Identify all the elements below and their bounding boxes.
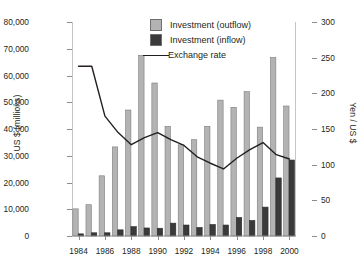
legend-item[interactable]: Investment (inflow) xyxy=(150,33,320,47)
x-axis-tick-label: 1986 xyxy=(96,246,114,256)
bar-inflow xyxy=(144,228,149,236)
y-axis-right-tick-label: 100 xyxy=(321,160,335,170)
y-axis-right-tick-label: 200 xyxy=(321,88,335,98)
bar-inflow xyxy=(184,225,189,236)
bar-outflow xyxy=(165,126,170,236)
x-axis-tick-label: 1996 xyxy=(227,246,245,256)
bar-inflow xyxy=(236,218,241,236)
legend-line-stroke xyxy=(143,55,169,56)
x-axis-tick xyxy=(105,236,106,240)
x-axis-tick-label: 1992 xyxy=(175,246,193,256)
x-axis-tick-label: 1984 xyxy=(69,246,87,256)
x-axis-tick xyxy=(263,236,264,240)
bar-inflow xyxy=(276,178,281,236)
y-axis-right-tick xyxy=(312,200,317,201)
bar-outflow xyxy=(231,107,236,236)
x-axis-tick-labels: 198419861988199019921994199619982000 xyxy=(72,240,296,262)
y-axis-left-tick-label: 70,000 xyxy=(4,44,29,54)
legend-line-icon xyxy=(150,50,160,60)
chart-legend: Investment (outflow)Investment (inflow)E… xyxy=(150,18,320,63)
bar-inflow xyxy=(210,225,215,237)
legend-item[interactable]: Exchange rate xyxy=(150,48,320,62)
x-axis-tick-label: 1998 xyxy=(254,246,272,256)
bar-outflow xyxy=(205,126,210,236)
legend-item-label: Investment (inflow) xyxy=(170,35,246,45)
bar-outflow xyxy=(152,83,157,236)
bar-outflow xyxy=(112,147,117,236)
y-axis-left-tick-label: 60,000 xyxy=(4,71,29,81)
x-axis-tick xyxy=(237,236,238,240)
y-axis-left-tick-label: 20,000 xyxy=(4,178,29,188)
bar-inflow xyxy=(170,223,175,236)
bar-inflow xyxy=(131,227,136,236)
bar-outflow xyxy=(126,110,131,236)
y-axis-right-tick xyxy=(312,93,317,94)
bar-outflow xyxy=(73,209,78,236)
y-axis-right-tick xyxy=(312,165,317,166)
bar-outflow xyxy=(284,106,289,236)
y-axis-left-tick-label: 0 xyxy=(24,231,29,241)
y-axis-left-tick-label: 80,000 xyxy=(4,17,29,27)
y-axis-left-tick-label: 50,000 xyxy=(4,97,29,107)
x-axis-tick-label: 1990 xyxy=(148,246,166,256)
bar-outflow xyxy=(178,145,183,236)
x-axis-tick xyxy=(79,236,80,240)
bar-inflow xyxy=(289,160,294,236)
bar-inflow xyxy=(118,230,123,236)
y-axis-left-tick-label: 10,000 xyxy=(4,204,29,214)
y-axis-right-tick-label: 0 xyxy=(321,231,326,241)
legend-item-label: Exchange rate xyxy=(168,50,226,60)
bar-inflow xyxy=(197,227,202,236)
y-axis-left-tick-label: 40,000 xyxy=(4,124,29,134)
x-axis-tick xyxy=(289,236,290,240)
legend-item-label: Investment (outflow) xyxy=(170,20,251,30)
x-axis-tick xyxy=(210,236,211,240)
legend-item[interactable]: Investment (outflow) xyxy=(150,18,320,32)
bar-outflow xyxy=(139,55,144,236)
y-axis-right-tick xyxy=(312,129,317,130)
bar-outflow xyxy=(99,176,104,236)
bar-inflow xyxy=(157,228,162,236)
y-axis-right-tick-label: 300 xyxy=(321,17,335,27)
y-axis-left-tick-label: 30,000 xyxy=(4,151,29,161)
y-axis-right-tick xyxy=(312,236,317,237)
chart-container: US $ (millions) Yen / US $ 010,00020,000… xyxy=(0,0,361,270)
y-axis-right-tick-label: 150 xyxy=(321,124,335,134)
x-axis-tick-label: 1988 xyxy=(122,246,140,256)
y-axis-left-ticks: 010,00020,00030,00040,00050,00060,00070,… xyxy=(0,0,51,270)
x-axis-tick xyxy=(184,236,185,240)
x-axis-tick xyxy=(158,236,159,240)
bar-outflow xyxy=(270,58,275,236)
legend-swatch-icon xyxy=(150,34,162,46)
bar-inflow xyxy=(249,220,254,236)
legend-swatch-icon xyxy=(150,19,162,31)
x-axis-tick-label: 1994 xyxy=(201,246,219,256)
x-axis-tick xyxy=(131,236,132,240)
bar-inflow xyxy=(223,225,228,236)
y-axis-right-tick-label: 250 xyxy=(321,53,335,63)
x-axis-tick-label: 2000 xyxy=(280,246,298,256)
bar-outflow xyxy=(86,205,91,236)
y-axis-right-tick-label: 50 xyxy=(321,195,330,205)
bar-outflow xyxy=(244,92,249,236)
bar-inflow xyxy=(263,207,268,236)
